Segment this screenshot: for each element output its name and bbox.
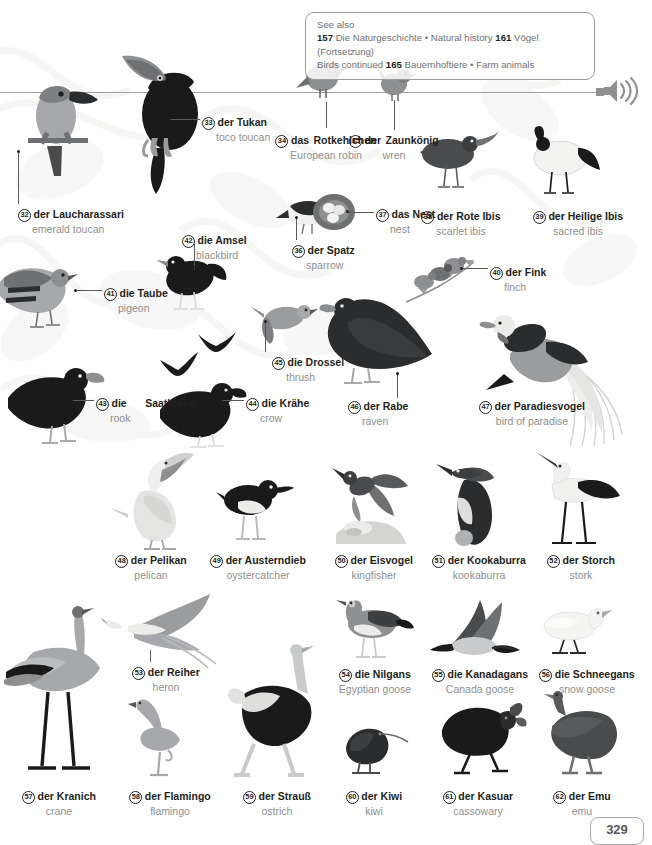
label-45: 45die Drossel thrush [272,352,344,383]
label-60: 60der Kiwi kiwi [322,786,426,817]
label-47-de: 47der Paradiesvogel [479,400,585,412]
leader-dot-45 [264,320,267,323]
see-also-line-2: Birds continued 165 Bauernhoftiere • Far… [317,58,584,72]
label-44-en: crow [260,412,309,424]
label-48-en: pelican [96,569,206,581]
label-36: 36der Spatz sparrow [292,240,355,271]
label-35-num: 35 [349,135,362,148]
bird-flamingo [128,694,190,782]
label-42-en: blackbird [196,249,247,261]
label-42: 42die Amsel blackbird [182,230,247,261]
label-54-en: Egyptian goose [320,683,430,695]
speaker-icon[interactable] [600,75,640,107]
label-51-de: 51der Kookaburra [432,554,526,566]
label-61: 61der Kasuar cassowary [418,786,538,817]
label-39-en: sacred ibis [514,225,642,237]
bird-kiwi [340,722,410,778]
label-40-de: 40der Fink [490,266,546,278]
label-41: 41die Taube pigeon [104,283,168,314]
leader-dot-33 [168,118,171,121]
page-number: 329 [590,817,644,845]
label-62-en: emu [530,805,634,817]
leader-53 [150,650,151,662]
leader-45 [265,322,266,352]
label-47-en: bird of paradise [452,415,612,427]
bird-oystercatcher [216,476,294,548]
leader-46 [397,374,398,398]
label-52: 52der Storch stork [526,550,636,581]
label-39: 39der Heilige Ibis sacred ibis [514,206,642,237]
label-58-de: 58der Flamingo [129,790,210,802]
label-44: 44die Krähe crow [246,393,309,424]
label-36-de: 36der Spatz [292,244,355,256]
bird-stork [534,450,620,556]
label-46-num: 46 [348,401,361,414]
label-61-num: 61 [443,791,456,804]
label-55-de: 55die Kanadagans [432,668,528,680]
see-also-ref-161[interactable]: 161 [495,32,511,43]
label-52-num: 52 [547,555,560,568]
leader-dot-42 [193,266,196,269]
label-36-num: 36 [292,245,305,258]
label-41-de: 41die Taube [104,287,168,299]
leader-dot-44 [220,399,223,402]
label-46-de: 46der Rabe [348,400,408,412]
label-34-num: 34 [275,135,288,148]
label-43-de: 43die [96,397,127,409]
leader-37 [348,212,374,213]
label-53-de: 53der Reiher [132,666,199,678]
label-42-de: 42die Amsel [182,234,247,246]
label-56: 56die Schneegans snow goose [524,664,650,695]
bird-pigeon [0,256,110,342]
label-33-de: 33der Tukan [202,116,267,128]
leader-dot-41 [74,289,77,292]
label-61-de: 61der Kasuar [443,790,513,802]
see-also-ref-157[interactable]: 157 [317,32,333,43]
bird-emerald-toucan [14,64,104,184]
leader-dot-36 [295,216,298,219]
label-35-de: 35der [349,134,381,146]
label-61-en: cassowary [418,805,538,817]
label-53: 53der Reiher heron [114,662,218,693]
label-33-num: 33 [202,117,215,130]
bird-kookaburra [434,458,506,552]
label-48-de: 48der Pelikan [115,554,187,566]
label-32-de: 32der Laucharassari [18,208,124,220]
label-43-en: rook [110,412,195,424]
label-46-en: raven [362,415,408,427]
label-56-num: 56 [539,669,552,682]
label-32-num: 32 [18,209,31,222]
label-50-de: 50der Eisvogel [335,554,413,566]
label-47-num: 47 [479,401,492,414]
label-58-num: 58 [129,791,142,804]
bird-crow-flying-2 [160,352,200,382]
label-43-num: 43 [96,398,109,411]
label-52-en: stork [526,569,636,581]
label-51-num: 51 [432,555,445,568]
leader-44 [222,400,244,401]
bird-pelican [110,452,196,552]
label-57-num: 57 [22,791,35,804]
bird-crane [4,606,114,786]
leader-dot-37 [346,210,349,213]
label-57-en: crane [4,805,114,817]
label-44-num: 44 [246,398,259,411]
label-52-de: 52der Storch [547,554,615,566]
see-also-line-1: 157 Die Naturgeschichte • Natural histor… [317,31,584,58]
label-37-num: 37 [376,209,389,222]
bird-ostrich [218,646,318,786]
label-32-en: emerald toucan [32,223,124,235]
label-53-num: 53 [132,667,145,680]
label-49-en: oystercatcher [196,569,320,581]
label-38-num: 38 [421,211,434,224]
label-50: 50der Eisvogel kingfisher [318,550,430,581]
label-51: 51der Kookaburra kookaburra [416,550,542,581]
label-51-en: kookaburra [416,569,542,581]
label-56-de: 56die Schneegans [539,668,634,680]
leader-36 [296,218,297,240]
label-59-de: 59der Strauß [243,790,311,802]
see-also-ref-165[interactable]: 165 [386,59,402,70]
bird-snow-goose [534,598,612,660]
label-41-en: pigeon [118,302,168,314]
label-62-de: 62der Emu [553,790,611,802]
